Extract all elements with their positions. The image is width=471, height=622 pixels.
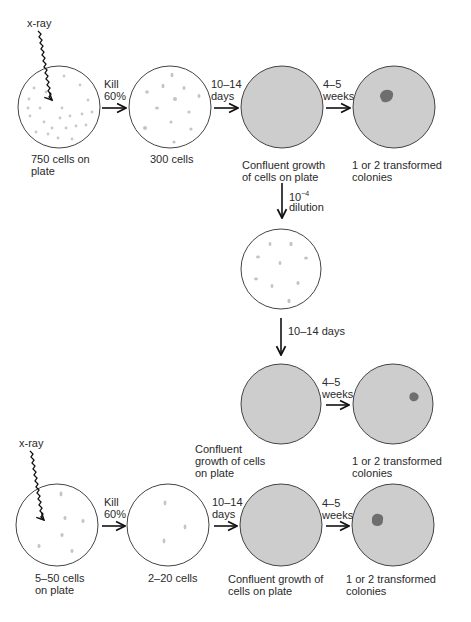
step-days-top: 10–14 (211, 78, 242, 90)
plate-confluent (241, 66, 323, 148)
middle-step-top: 4–5 (322, 376, 340, 388)
plate3-caption: Confluent growth (242, 159, 325, 171)
plate3-caption-2: cells on plate (228, 585, 292, 597)
plate2-caption: 2–20 cells (148, 572, 198, 584)
plate-300-cells (129, 66, 211, 148)
step-days-bottom: days (211, 90, 234, 102)
plate-750-cells (18, 66, 100, 148)
step-days-bottom: days (212, 508, 235, 520)
plate-transformed (353, 66, 435, 148)
plate4-caption-2: colonies (352, 171, 392, 183)
diagram-canvas (0, 0, 471, 622)
middle-down-step: 10–14 days (288, 325, 345, 337)
step-kill-bottom: 60% (104, 90, 126, 102)
middle-confluent-caption-2: growth of cells (195, 455, 265, 467)
plate-diluted (241, 229, 321, 309)
plate1-caption-2: on plate (35, 584, 74, 596)
middle-confluent-caption: Confluent (195, 443, 242, 455)
plate2-caption: 300 cells (150, 153, 193, 165)
step-weeks-bottom: weeks (322, 509, 353, 521)
plate3-caption: Confluent growth of (228, 573, 323, 585)
step-kill-top: Kill (104, 496, 119, 508)
plate1-caption: 5–50 cells (35, 572, 85, 584)
plate1-caption-2: plate (31, 165, 55, 177)
middle-confluent-caption-3: on plate (195, 467, 234, 479)
xray-label: x-ray (27, 17, 51, 29)
step-kill-top: Kill (104, 78, 119, 90)
step-weeks-top: 4–5 (322, 497, 340, 509)
step-kill-bottom: 60% (104, 508, 126, 520)
step-weeks-top: 4–5 (323, 78, 341, 90)
step-days-top: 10–14 (212, 496, 243, 508)
xray-label: x-ray (19, 437, 43, 449)
plate4-caption-2: colonies (346, 585, 386, 597)
dilution-exponent: −4 (301, 190, 309, 197)
plate1-caption: 750 cells on (31, 153, 90, 165)
plate-transformed-middle (353, 364, 433, 444)
plate-confluent-bottom (240, 484, 322, 566)
plate3-caption-2: of cells on plate (242, 171, 318, 183)
plate-confluent-middle (241, 364, 321, 444)
dilution-label: dilution (289, 201, 324, 213)
middle-step-bottom: weeks (322, 388, 353, 400)
plate4-caption: 1 or 2 transformed (346, 573, 436, 585)
plate-5-50-cells (16, 484, 98, 566)
plate-transformed-bottom (352, 484, 434, 566)
middle-colonies-caption: 1 or 2 transformed (352, 455, 442, 467)
plate4-caption: 1 or 2 transformed (352, 159, 442, 171)
plate-2-20-cells (127, 484, 209, 566)
transformed-colony (372, 514, 383, 526)
middle-colonies-caption-2: colonies (352, 467, 392, 479)
step-weeks-bottom: weeks (323, 90, 354, 102)
